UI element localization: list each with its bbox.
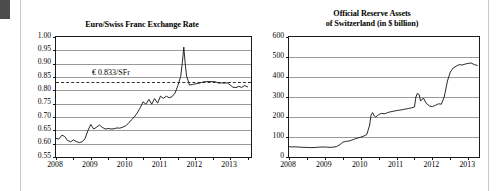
chart-euro-swiss-franc: Euro/Swiss Franc Exchange Rate 1.000.950… [26, 0, 258, 191]
xtick-label: 2013 [459, 160, 475, 169]
chart-title-exchange-rate: Euro/Swiss Franc Exchange Rate [26, 20, 258, 30]
xtick-mark [213, 157, 214, 160]
xtick-mark [178, 157, 179, 160]
ytick-label: 0.55 [30, 152, 51, 160]
ytick-label: 600 [268, 32, 284, 40]
ytick-label: 1.00 [30, 32, 51, 40]
page-right-rule [488, 0, 489, 191]
ytick-label: 0.70 [30, 112, 51, 120]
ytick-label: 0.95 [30, 45, 51, 53]
ytick-label: 100 [268, 132, 284, 140]
xtick-mark [307, 157, 308, 160]
xtick-label: 2012 [186, 160, 202, 169]
xtick-label: 2012 [424, 160, 440, 169]
xtick-mark [248, 157, 249, 160]
chart-title-line-2: of Switzerland (in $ billion) [258, 19, 486, 29]
xtick-label: 2008 [280, 160, 296, 169]
xtick-label: 2011 [152, 160, 167, 169]
xtick-label: 2010 [117, 160, 133, 169]
chart-title-reserve-assets: Official Reserve Assets of Switzerland (… [258, 9, 486, 28]
ytick-label: 300 [268, 92, 284, 100]
xtick-label: 2010 [352, 160, 368, 169]
ytick-label: 400 [268, 72, 284, 80]
xtick-mark [143, 157, 144, 160]
xtick-mark [414, 157, 415, 160]
series-line [56, 37, 251, 157]
series-line [289, 37, 479, 157]
xtick-label: 2009 [316, 160, 332, 169]
ytick-label: 500 [268, 52, 284, 60]
ytick-label: 0.90 [30, 58, 51, 66]
ytick-label: 0.60 [30, 138, 51, 146]
xtick-mark [73, 157, 74, 160]
reference-line-label: € 0.833/SFr [92, 68, 130, 77]
page-corner-marker [0, 0, 10, 19]
ytick-label: 200 [268, 112, 284, 120]
ytick-label: 0.80 [30, 85, 51, 93]
xtick-label: 2011 [388, 160, 403, 169]
plot-area-reserve-assets [288, 36, 480, 158]
xtick-mark [450, 157, 451, 160]
xtick-mark [343, 157, 344, 160]
xtick-label: 2008 [47, 160, 63, 169]
chart-swiss-reserve-assets: Official Reserve Assets of Switzerland (… [258, 0, 486, 191]
ytick-label: 0 [268, 152, 284, 160]
figure-page: Euro/Swiss Franc Exchange Rate 1.000.950… [0, 0, 498, 191]
xtick-mark [379, 157, 380, 160]
page-left-rule [20, 0, 21, 191]
ytick-label: 0.85 [30, 72, 51, 80]
xtick-label: 2013 [221, 160, 237, 169]
ytick-label: 0.65 [30, 125, 51, 133]
chart-title-line-1: Official Reserve Assets [258, 9, 486, 19]
ytick-label: 0.75 [30, 98, 51, 106]
plot-area-exchange-rate [55, 36, 252, 158]
xtick-mark [108, 157, 109, 160]
xtick-label: 2009 [82, 160, 98, 169]
